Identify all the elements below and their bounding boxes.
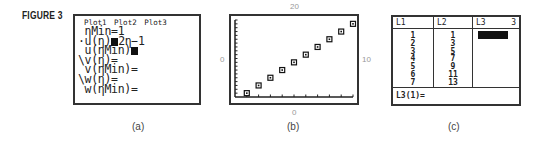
caption-a: (a) [132, 121, 144, 132]
graph-screen [229, 14, 359, 105]
caption-b: (b) [287, 121, 299, 132]
list-editor-screen: L1 1234567 L2 135791113 L33 L3(1)= [391, 15, 521, 106]
column-values: 1234567 [393, 29, 433, 87]
equals-highlight-icon [131, 47, 138, 55]
xmax-label: 10 [362, 55, 371, 64]
data-point-center [329, 38, 331, 40]
list-column-l3[interactable]: L33 [473, 17, 519, 88]
ymin-label: 0 [292, 108, 296, 117]
column-values: 135791113 [434, 29, 472, 87]
w-nmin-line[interactable]: w(ηMin)= [78, 85, 199, 95]
cursor-highlight[interactable] [478, 31, 508, 39]
list-cell[interactable]: 13 [434, 79, 472, 87]
data-point-center [340, 31, 342, 33]
data-point-center [305, 54, 307, 56]
entry-line[interactable]: L3(1)= [393, 87, 519, 104]
data-point-center [258, 85, 260, 87]
column-header-label: L3 [476, 18, 486, 27]
column-header[interactable]: L33 [473, 17, 519, 29]
data-point-center [246, 92, 248, 94]
data-point-center [317, 46, 319, 48]
xmin-label: 0 [220, 55, 224, 64]
data-point-center [270, 77, 272, 79]
ymax-label: 20 [290, 2, 299, 11]
column-number: 3 [511, 17, 516, 28]
list-column-l1[interactable]: L1 1234567 [393, 17, 434, 88]
list-column-l2[interactable]: L2 135791113 [434, 17, 473, 88]
sequence-editor-screen: Plot1 Plot2 Plot3 ηMin=1 ·u(η)2η−1 u(ηMi… [73, 14, 201, 105]
caption-c: (c) [448, 121, 460, 132]
data-point-center [281, 69, 283, 71]
list-cell[interactable]: 7 [393, 79, 433, 87]
data-point-center [352, 23, 354, 25]
scatter-plot [231, 16, 357, 103]
data-point-center [293, 62, 295, 64]
column-header[interactable]: L1 [393, 17, 433, 29]
column-header[interactable]: L2 [434, 17, 472, 29]
plot3-toggle[interactable]: Plot3 [144, 18, 167, 27]
figure-label: FIGURE 3 [22, 10, 63, 21]
